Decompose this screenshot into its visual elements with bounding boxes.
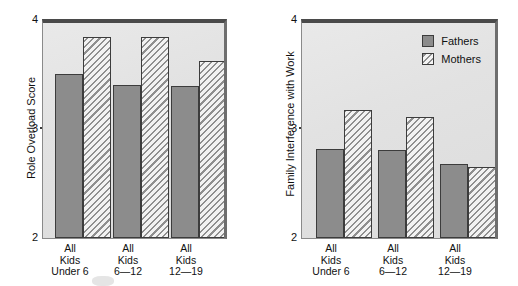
legend-label-mothers: Mothers [441, 53, 481, 65]
bar-fathers-under6-left [55, 74, 83, 238]
legend-item-mothers: Mothers [422, 53, 481, 65]
legend: Fathers Mothers [422, 35, 481, 65]
panel-family-interference: Family Interference with Work 4 3 2 Fath… [259, 0, 518, 286]
legend-item-fathers: Fathers [422, 35, 481, 47]
x-category-label-right-6to12: All Kids 6—12 [365, 243, 421, 278]
bar-mothers-6to12-right [406, 117, 434, 238]
bar-fathers-6to12-right [378, 150, 406, 238]
x-category-label-right-under6: All Kids Under 6 [303, 243, 359, 278]
x-category-label-left-6to12: All Kids 6—12 [100, 243, 156, 278]
panel-role-overload: Role Overload Score 4 3 2 All Kids Under… [0, 0, 259, 286]
legend-swatch-fathers-icon [422, 35, 434, 47]
y-tick-label-right-2: 2 [283, 231, 297, 243]
x-category-label-left-12to19: All Kids 12—19 [158, 243, 214, 278]
plot-area-right: Fathers Mothers [301, 19, 498, 239]
bar-mothers-under6-left [83, 37, 111, 238]
y-tick-label-left-4: 4 [24, 13, 38, 25]
bar-mothers-12to19-left [199, 61, 227, 238]
y-tick-label-right-4: 4 [283, 13, 297, 25]
x-category-label-left-under6: All Kids Under 6 [42, 243, 98, 278]
y-tick-label-left-2: 2 [24, 231, 38, 243]
bar-fathers-under6-right [316, 149, 344, 238]
legend-swatch-mothers-icon [422, 53, 434, 65]
figure-two-panel-bar-charts: Role Overload Score 4 3 2 All Kids Under… [0, 0, 518, 286]
x-category-label-right-12to19: All Kids 12—19 [427, 243, 483, 278]
bar-fathers-6to12-left [113, 85, 141, 238]
scan-artifact [92, 276, 114, 286]
plot-area-left [42, 19, 227, 239]
bar-fathers-12to19-right [440, 164, 468, 238]
y-tick-label-left-3: 3 [24, 122, 38, 134]
bar-mothers-6to12-left [141, 37, 169, 238]
legend-label-fathers: Fathers [441, 35, 478, 47]
y-tick-label-right-3: 3 [283, 122, 297, 134]
bar-fathers-12to19-left [171, 86, 199, 238]
bar-mothers-under6-right [344, 110, 372, 238]
bar-mothers-12to19-right [468, 167, 496, 238]
